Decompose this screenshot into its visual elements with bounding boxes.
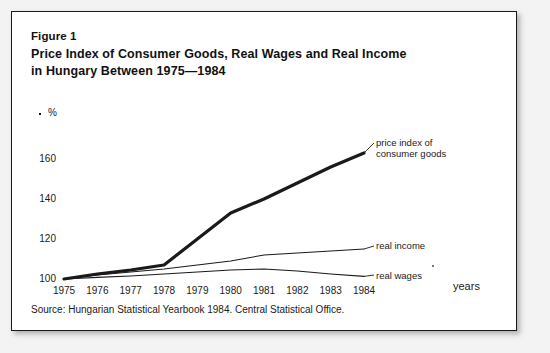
- x-axis-tick-label: 1983: [314, 285, 348, 296]
- series-label-real-income: real income: [376, 240, 425, 251]
- label-leader-line: [364, 275, 374, 276]
- x-axis-tick-label: 1979: [180, 285, 214, 296]
- label-leader-line: [364, 246, 374, 249]
- y-axis-tick-label: 100: [28, 273, 56, 284]
- label-leader-line: [364, 143, 374, 153]
- x-axis-tick-label: 1975: [47, 285, 81, 296]
- series-line: [64, 153, 364, 279]
- x-axis-tick-label: 1982: [280, 285, 314, 296]
- series-line: [64, 249, 364, 279]
- x-axis-tick-label: 1977: [114, 285, 148, 296]
- x-axis-label: years: [453, 280, 480, 292]
- y-axis-tick-label: 160: [28, 153, 56, 164]
- figure-card: Figure 1 Price Index of Consumer Goods, …: [11, 11, 517, 331]
- x-axis-tick-label: 1976: [80, 285, 114, 296]
- series-label-price-index-line-1: price index of: [376, 137, 446, 148]
- x-axis-tick-label: 1980: [214, 285, 248, 296]
- source-note: Source: Hungarian Statistical Yearbook 1…: [31, 304, 344, 315]
- y-axis-tick-label: 140: [28, 193, 56, 204]
- series-label-price-index: price index of consumer goods: [376, 137, 446, 159]
- x-axis-tick-label: 1981: [247, 285, 281, 296]
- series-label-real-wages: real wages: [376, 270, 422, 281]
- series-label-price-index-line-2: consumer goods: [376, 148, 446, 159]
- y-axis-tick-label: 120: [28, 233, 56, 244]
- line-chart-plot: [12, 12, 518, 332]
- x-axis-tick-label: 1984: [347, 285, 381, 296]
- print-artifact-dot: [432, 265, 434, 267]
- x-axis-tick-label: 1978: [147, 285, 181, 296]
